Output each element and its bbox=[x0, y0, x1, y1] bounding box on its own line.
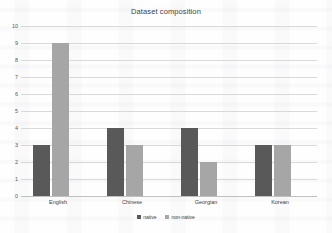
chart-legend: nativenon-native bbox=[0, 214, 332, 220]
y-axis-tick-label: 3 bbox=[5, 142, 18, 148]
legend-label: native bbox=[143, 214, 156, 220]
legend-item-non-native[interactable]: non-native bbox=[165, 214, 194, 220]
legend-item-native[interactable]: native bbox=[137, 214, 156, 220]
bar-english-native bbox=[33, 145, 50, 196]
y-axis-tick-label: 5 bbox=[5, 108, 18, 114]
bar-group bbox=[243, 26, 317, 196]
y-axis-tick-label: 2 bbox=[5, 159, 18, 165]
x-axis-tick-label: Korean bbox=[243, 199, 317, 205]
bar-english-non-native bbox=[52, 43, 69, 196]
chart-title: Dataset composition bbox=[0, 7, 332, 16]
y-axis-tick-label: 0 bbox=[5, 193, 18, 199]
y-axis-tick-label: 6 bbox=[5, 91, 18, 97]
bar-group bbox=[21, 26, 95, 196]
x-axis: EnglishChineseGeorgianKorean bbox=[21, 199, 317, 211]
bar-chinese-non-native bbox=[126, 145, 143, 196]
x-axis-tick-label: Chinese bbox=[95, 199, 169, 205]
legend-label: non-native bbox=[171, 214, 194, 220]
legend-swatch-icon bbox=[137, 215, 141, 219]
bar-georgian-native bbox=[181, 128, 198, 196]
y-axis-tick-label: 7 bbox=[5, 74, 18, 80]
legend-swatch-icon bbox=[165, 215, 169, 219]
x-axis-tick-label: Georgian bbox=[169, 199, 243, 205]
bar-korean-native bbox=[255, 145, 272, 196]
bar-group bbox=[169, 26, 243, 196]
chart-container: Dataset composition 012345678910 English… bbox=[0, 0, 332, 233]
bar-georgian-non-native bbox=[200, 162, 217, 196]
bar-chinese-native bbox=[107, 128, 124, 196]
bar-korean-non-native bbox=[274, 145, 291, 196]
x-axis-baseline bbox=[21, 196, 317, 197]
x-axis-tick-label: English bbox=[21, 199, 95, 205]
y-axis-tick-label: 4 bbox=[5, 125, 18, 131]
y-axis-tick-label: 9 bbox=[5, 40, 18, 46]
y-axis-tick-label: 10 bbox=[5, 23, 18, 29]
bar-group bbox=[95, 26, 169, 196]
bars-layer bbox=[21, 26, 317, 196]
y-axis-tick-label: 8 bbox=[5, 57, 18, 63]
y-axis-tick-label: 1 bbox=[5, 176, 18, 182]
